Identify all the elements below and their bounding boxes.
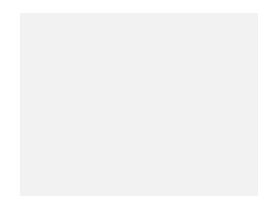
knitting-chart-grid xyxy=(20,13,258,196)
